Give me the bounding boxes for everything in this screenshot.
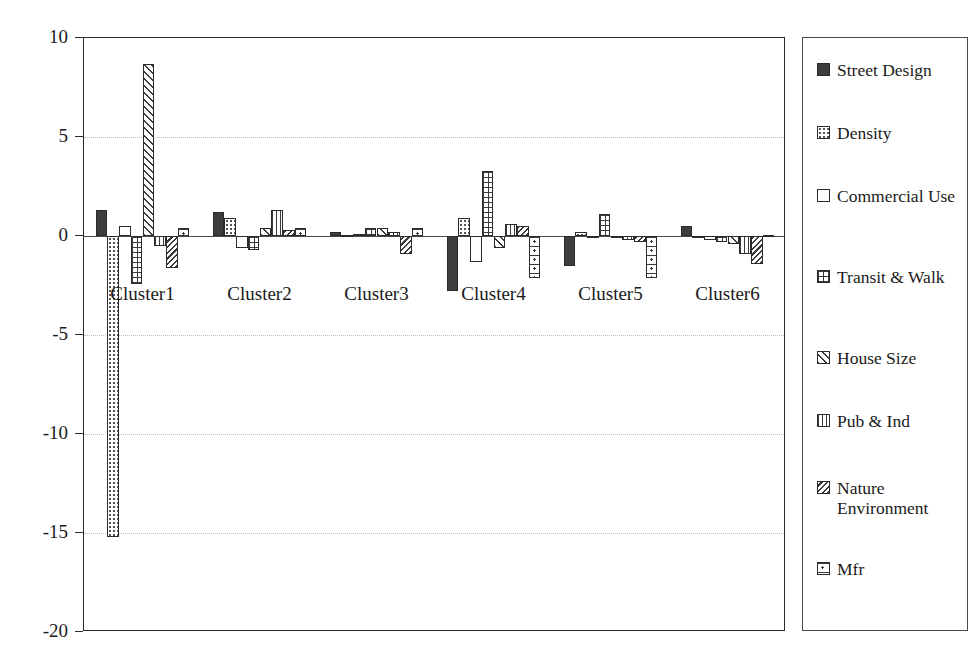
legend-item[interactable]: Transit & Walk (817, 267, 967, 287)
bar (166, 236, 178, 268)
legend-swatch-icon (817, 351, 830, 364)
y-tick-mark (75, 235, 83, 236)
cluster-label: Cluster2 (201, 284, 318, 304)
legend-item[interactable]: Density (817, 123, 967, 143)
y-tick-label: -15 (22, 522, 68, 541)
y-tick-mark (75, 136, 83, 137)
cluster-label: Cluster5 (552, 284, 669, 304)
bar (388, 232, 400, 236)
bar (341, 235, 353, 237)
legend-swatch-icon (817, 562, 830, 575)
legend-swatch-icon (817, 270, 830, 283)
legend-item[interactable]: Nature Environment (817, 478, 967, 518)
bar (96, 210, 108, 236)
legend-swatch-icon (817, 126, 830, 139)
y-tick-mark (75, 433, 83, 434)
legend-label: Nature Environment (837, 478, 967, 518)
bar (224, 218, 236, 236)
bar (119, 226, 131, 236)
bar (634, 236, 646, 242)
bar (154, 236, 166, 246)
legend-item[interactable]: Street Design (817, 60, 967, 80)
bar (470, 236, 482, 262)
bar (728, 236, 740, 244)
bar (377, 228, 389, 236)
bar (704, 236, 716, 240)
bar (482, 171, 494, 236)
bar (400, 236, 412, 254)
bar (751, 236, 763, 264)
bar (107, 236, 119, 537)
bar (517, 226, 529, 236)
y-tick-label: -5 (22, 324, 68, 343)
bar (236, 236, 248, 248)
cluster-label: Cluster3 (318, 284, 435, 304)
bar (646, 236, 658, 278)
bar (599, 214, 611, 236)
cluster-label: Cluster1 (84, 284, 201, 304)
legend-swatch-icon (817, 481, 830, 494)
legend-label: House Size (837, 348, 916, 368)
legend: Street DesignDensityCommercial UseTransi… (802, 37, 968, 631)
legend-label: Street Design (837, 60, 932, 80)
bar (260, 228, 272, 236)
legend-item[interactable]: House Size (817, 348, 967, 368)
bar (611, 236, 623, 238)
bar (295, 228, 307, 236)
legend-swatch-icon (817, 63, 830, 76)
plot-area: Cluster1Cluster2Cluster3Cluster4Cluster5… (83, 37, 785, 631)
bar (575, 232, 587, 236)
bar (178, 228, 190, 236)
bar (529, 236, 541, 278)
bar (412, 228, 424, 236)
y-tick-label: 5 (22, 126, 68, 145)
bar (681, 226, 693, 236)
bar (365, 228, 377, 236)
y-tick-mark (75, 37, 83, 38)
y-tick-mark (75, 532, 83, 533)
legend-label: Density (837, 123, 891, 143)
legend-label: Mfr (837, 559, 864, 579)
bar (283, 230, 295, 236)
bar (622, 236, 634, 240)
bars-layer (84, 38, 784, 630)
bar (213, 212, 225, 236)
bar (353, 234, 365, 236)
bar (564, 236, 576, 266)
bar (716, 236, 728, 242)
legend-label: Transit & Walk (837, 267, 945, 287)
bar (587, 236, 599, 238)
bar (739, 236, 751, 254)
cluster-bar-chart: 1050-5-10-15-20 Cluster1Cluster2Cluster3… (0, 0, 978, 663)
y-tick-mark (75, 631, 83, 632)
bar (763, 235, 775, 237)
bar (458, 218, 470, 236)
bar (248, 236, 260, 250)
y-tick-label: -10 (22, 423, 68, 442)
bar (692, 236, 704, 238)
legend-item[interactable]: Pub & Ind (817, 411, 967, 431)
y-tick-mark (75, 334, 83, 335)
bar (271, 210, 283, 236)
bar (330, 232, 342, 236)
y-tick-label: 10 (22, 27, 68, 46)
legend-item[interactable]: Mfr (817, 559, 967, 579)
bar (131, 236, 143, 284)
bar (505, 224, 517, 236)
legend-item[interactable]: Commercial Use (817, 186, 967, 206)
bar (143, 64, 155, 236)
y-tick-label: 0 (22, 225, 68, 244)
cluster-label: Cluster4 (435, 284, 552, 304)
bar (494, 236, 506, 248)
y-tick-label: -20 (22, 621, 68, 640)
legend-label: Commercial Use (837, 186, 955, 206)
legend-swatch-icon (817, 189, 830, 202)
cluster-label: Cluster6 (669, 284, 786, 304)
legend-label: Pub & Ind (837, 411, 910, 431)
legend-swatch-icon (817, 414, 830, 427)
